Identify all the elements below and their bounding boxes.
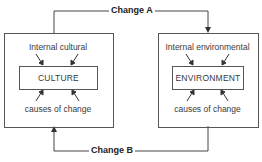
internal-environmental-label: Internal environmental xyxy=(158,42,257,52)
change-a-label: Change A xyxy=(109,5,155,15)
environmental-causes-label: causes of change xyxy=(158,104,257,114)
cultural-causes-label: causes of change xyxy=(4,104,112,114)
internal-cultural-label: Internal cultural xyxy=(4,42,112,52)
culture-box: CULTURE xyxy=(19,66,98,90)
change-b-label: Change B xyxy=(89,145,135,155)
environment-box: ENVIRONMENT xyxy=(172,66,244,90)
